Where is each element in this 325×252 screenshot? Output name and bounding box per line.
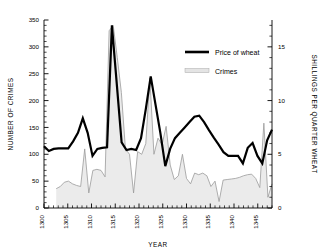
- bottom-tick-label: 1305: [62, 214, 69, 228]
- bottom-tick-label: 1345: [252, 214, 259, 228]
- right-tick-label: 5: [278, 150, 282, 157]
- left-tick-label: 0: [36, 204, 40, 211]
- wheat-price-crimes-chart: 050100150200250300350 051015 13001305131…: [0, 0, 325, 252]
- left-tick-label: 200: [29, 97, 40, 104]
- left-tick-label: 300: [29, 43, 40, 50]
- bottom-tick-label: 1340: [228, 214, 235, 228]
- right-tick-label: 10: [278, 97, 285, 104]
- left-tick-label: 150: [29, 124, 40, 131]
- bottom-tick-label: 1335: [204, 214, 211, 228]
- left-tick-label: 350: [29, 16, 40, 23]
- bottom-tick-label: 1325: [157, 214, 164, 228]
- bottom-tick-label: 1330: [181, 214, 188, 228]
- y2-axis-title: SHILLINGS PER QUARTER WHEAT: [310, 54, 318, 173]
- legend-swatch-crimes: [185, 69, 209, 73]
- bottom-tick-label: 1320: [133, 214, 140, 228]
- left-tick-label: 50: [32, 177, 39, 184]
- chart-container: 050100150200250300350 051015 13001305131…: [0, 0, 325, 252]
- bottom-tick-label: 1315: [109, 214, 116, 228]
- right-tick-label: 0: [278, 204, 282, 211]
- bottom-tick-label: 1300: [38, 214, 45, 228]
- left-tick-label: 250: [29, 70, 40, 77]
- legend-label-price-of-wheat: Price of wheat: [215, 49, 259, 56]
- x-axis-title: YEAR: [148, 241, 167, 248]
- right-tick-label: 15: [278, 43, 285, 50]
- legend-label-crimes: Crimes: [215, 68, 238, 75]
- left-tick-label: 100: [29, 150, 40, 157]
- bottom-tick-label: 1310: [86, 214, 93, 228]
- y-axis-title: NUMBER OF CRIMES: [7, 78, 14, 151]
